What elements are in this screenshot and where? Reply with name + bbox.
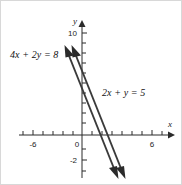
x-axis-name: x: [167, 119, 172, 129]
y-axis-arrow-icon: [79, 20, 86, 27]
coordinate-plane: -6 0 6 x 10 -2 y: [1, 1, 182, 185]
y-axis-name: y: [72, 16, 77, 26]
x-tick-label-zero: 0: [75, 140, 80, 149]
x-tick-label-neg6: -6: [29, 140, 37, 149]
line-segment: [68, 52, 116, 171]
equation-label-line1-text: 4x + 2y = 8: [10, 49, 58, 60]
equation-label-line2: 2x + y = 5: [102, 87, 145, 98]
graph-line-2x-y-5: [72, 45, 126, 179]
equation-label-line2-text: 2x + y = 5: [102, 87, 145, 98]
equation-label-line1: 4x + 2y = 8: [10, 49, 58, 60]
arrow-head-up-icon: [72, 45, 82, 58]
graph-figure: -6 0 6 x 10 -2 y: [0, 0, 182, 185]
x-axis-arrow-icon: [168, 132, 175, 139]
x-tick-label-6: 6: [150, 140, 155, 149]
y-axis: 10 -2 y: [68, 16, 87, 178]
y-tick-label-neg2: -2: [70, 156, 78, 165]
y-tick-label-10: 10: [68, 29, 77, 38]
